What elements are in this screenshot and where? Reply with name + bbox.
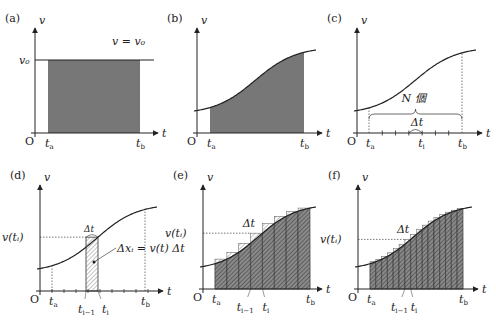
tb-label: tb — [300, 137, 309, 151]
strip-under-curve — [376, 259, 382, 289]
panel-label: (c) — [327, 12, 342, 25]
line-equation-label: v = v₀ — [112, 35, 146, 48]
panel-label: (d) — [10, 169, 26, 182]
strip-under-curve — [422, 225, 428, 289]
strip-under-curve — [405, 240, 411, 289]
v-axis-label: v — [207, 171, 214, 184]
v-axis-label: v — [362, 171, 369, 184]
v-axis-label: v — [39, 14, 46, 27]
strip-under-curve — [428, 221, 434, 289]
vti-label: v(tᵢ) — [320, 233, 341, 246]
ti-label: ti — [418, 137, 425, 151]
ta-label: ta — [45, 137, 54, 151]
tick-leader — [85, 291, 86, 299]
panel-c: N 個Δtti(c)vtOtatb — [327, 12, 491, 151]
origin-label: O — [25, 135, 34, 148]
strip-under-curve — [399, 244, 405, 289]
vti-label: v(tᵢ) — [2, 231, 23, 244]
tick-leader — [248, 289, 251, 297]
strip-under-curve — [370, 262, 376, 289]
strip-under-curve — [298, 208, 310, 289]
strip-under-curve — [286, 211, 298, 289]
panel-label: (a) — [5, 12, 20, 25]
panel-label: (e) — [173, 169, 188, 182]
strip-under-curve — [457, 209, 463, 289]
t-axis-label: t — [326, 127, 331, 140]
t-axis-label: t — [482, 283, 487, 296]
panel-label: (f) — [328, 169, 341, 182]
panel-f: v(tᵢ)Δtti−1ti(f)vtOtatb — [320, 169, 487, 315]
v-axis-label: v — [361, 14, 368, 27]
v-axis-label: v — [201, 14, 208, 27]
strip-under-curve — [382, 257, 388, 289]
tick-leader — [98, 291, 101, 299]
panel-b: (b)vtOtatb — [167, 12, 331, 151]
strip-under-curve — [434, 218, 440, 289]
ta-label: ta — [366, 137, 375, 151]
strip-under-curve — [263, 224, 275, 289]
dt-label: Δt — [83, 224, 94, 234]
origin-label: O — [187, 135, 196, 148]
tb-label: tb — [459, 293, 468, 307]
strip-under-curve — [411, 235, 417, 289]
dt-label: Δt — [410, 116, 424, 129]
strip-under-curve — [274, 217, 286, 289]
panel-e: v(tᵢ)Δtti−1ti(e)vtOtatb — [165, 169, 331, 315]
area-fill — [48, 60, 140, 133]
ta-label: ta — [212, 293, 221, 307]
origin-label: O — [30, 293, 39, 306]
tb-label: tb — [306, 293, 315, 307]
origin-label: O — [347, 135, 356, 148]
velocity-integral-figure: v₀v = v₀(a)vtOtatb(b)vtOtatbN 個Δtti(c)vt… — [0, 0, 496, 322]
panel-label: (b) — [167, 12, 183, 25]
tb-label: tb — [458, 137, 467, 151]
tick-leader — [402, 289, 405, 297]
dt-bracket — [409, 130, 422, 134]
strip-under-curve — [440, 215, 446, 289]
strip-under-curve — [387, 253, 393, 289]
origin-label: O — [193, 291, 202, 304]
tb-label: tb — [141, 295, 150, 309]
ti-label: ti — [102, 303, 109, 317]
dt-label: Δt — [242, 217, 256, 230]
tb-label: tb — [136, 137, 145, 151]
ta-label: ta — [207, 137, 216, 151]
ti-1-label: ti−1 — [78, 303, 95, 317]
t-axis-label: t — [167, 285, 172, 298]
tick-leader — [411, 289, 413, 297]
area-fill — [210, 52, 304, 133]
t-axis-label: t — [326, 283, 331, 296]
ta-label: ta — [49, 295, 58, 309]
tick-leader — [263, 289, 265, 297]
ti-label: ti — [263, 301, 270, 315]
t-axis-label: t — [162, 127, 167, 140]
strip-under-curve — [393, 249, 399, 289]
panel-d: v(tᵢ)ΔtΔxᵢ = v(t) Δtti−1ti(d)vtOtatb — [2, 169, 185, 317]
brace-label: N 個 — [401, 92, 428, 105]
v0-label: v₀ — [19, 54, 30, 67]
strip-under-curve — [451, 210, 457, 289]
ti-1-label: ti−1 — [391, 301, 408, 315]
ti-1-label: ti−1 — [237, 301, 254, 315]
v-axis-label: v — [44, 171, 51, 184]
origin-label: O — [348, 291, 357, 304]
vti-label: v(tᵢ) — [165, 227, 186, 240]
ti-label: ti — [411, 301, 418, 315]
dt-label: Δt — [396, 223, 410, 236]
t-axis-label: t — [486, 127, 491, 140]
panel-a: v₀v = v₀(a)vtOtatb — [5, 12, 167, 151]
dx-equation: Δxᵢ = v(t) Δt — [116, 242, 185, 255]
strip-under-curve — [417, 230, 423, 289]
ta-label: ta — [367, 293, 376, 307]
strip-under-curve — [446, 212, 452, 289]
